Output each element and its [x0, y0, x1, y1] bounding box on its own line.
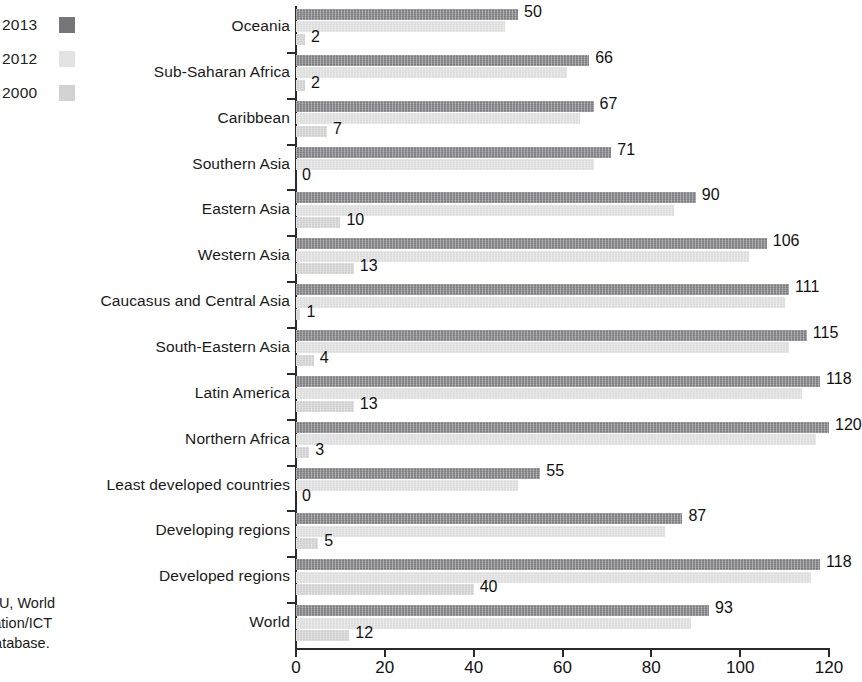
x-axis-tick-label: 60 [553, 658, 572, 678]
bar-texture [296, 584, 474, 595]
bar-2013 [296, 330, 807, 341]
bar-value-label: 4 [320, 352, 329, 363]
category-label: Developed regions [0, 567, 290, 585]
y-axis-tick [287, 556, 296, 558]
bar-2000 [296, 538, 318, 549]
bar-2000 [296, 217, 340, 228]
category-label: Developing regions [0, 521, 290, 539]
bar-2013 [296, 559, 820, 570]
bar-texture [296, 159, 594, 170]
bar-texture [296, 572, 811, 583]
bar-value-label: 118 [826, 373, 852, 384]
bar-texture [296, 263, 354, 274]
y-axis-tick [287, 327, 296, 329]
y-axis-tick [287, 465, 296, 467]
x-axis-tick-label: 120 [815, 658, 843, 678]
bar-value-label: 66 [595, 52, 613, 63]
bar-value-label: 10 [346, 214, 364, 225]
bar-2012 [296, 159, 594, 170]
y-axis-tick [287, 419, 296, 421]
category-label: Western Asia [0, 246, 290, 264]
bar-texture [296, 630, 349, 641]
category-label: Least developed countries [0, 476, 290, 494]
y-axis-tick [287, 281, 296, 283]
bar-texture [296, 217, 340, 228]
bar-texture [296, 34, 305, 45]
bar-value-label: 2 [311, 31, 320, 42]
bar-texture [296, 297, 785, 308]
bar-value-label: 0 [302, 490, 311, 501]
category-label: World [0, 613, 290, 631]
bar-texture [296, 55, 589, 66]
y-axis-tick [287, 602, 296, 604]
bar-2012 [296, 572, 811, 583]
bar-texture [296, 447, 309, 458]
bar-2013 [296, 605, 709, 616]
bar-2013 [296, 101, 594, 112]
bar-2000 [296, 447, 309, 458]
bar-2000 [296, 630, 349, 641]
bar-texture [296, 330, 807, 341]
category-label: Caribbean [0, 109, 290, 127]
bar-texture [296, 238, 767, 249]
bar-value-label: 5 [324, 535, 333, 546]
bar-2012 [296, 434, 816, 445]
y-axis-tick [287, 144, 296, 146]
bar-texture [296, 21, 505, 32]
bar-texture [296, 376, 820, 387]
bar-2013 [296, 9, 518, 20]
bar-value-label: 7 [333, 123, 342, 134]
bar-value-label: 1 [306, 306, 315, 317]
bar-2000 [296, 80, 305, 91]
bar-2013 [296, 513, 682, 524]
x-axis-tick [828, 648, 830, 657]
bar-value-label: 2 [311, 77, 320, 88]
category-label: South-Eastern Asia [0, 338, 290, 356]
bar-2012 [296, 342, 789, 353]
category-label: Eastern Asia [0, 200, 290, 218]
bar-2012 [296, 480, 518, 491]
bar-value-label: 40 [480, 581, 498, 592]
bar-texture [296, 422, 829, 433]
bar-2000 [296, 355, 314, 366]
bar-2013 [296, 468, 540, 479]
x-axis-tick [473, 648, 475, 657]
x-axis-tick [739, 648, 741, 657]
bar-value-label: 90 [702, 189, 720, 200]
x-axis-tick [384, 648, 386, 657]
bar-2000 [296, 401, 354, 412]
bar-texture [296, 342, 789, 353]
bar-2013 [296, 192, 696, 203]
bar-texture [296, 434, 816, 445]
bar-2013 [296, 238, 767, 249]
bar-texture [296, 147, 611, 158]
y-axis-tick [287, 98, 296, 100]
y-axis-tick [287, 373, 296, 375]
bar-texture [296, 9, 518, 20]
y-axis-tick [287, 235, 296, 237]
bar-texture [296, 605, 709, 616]
bar-texture [296, 513, 682, 524]
y-axis-tick [287, 510, 296, 512]
bar-2012 [296, 21, 505, 32]
bar-value-label: 50 [524, 6, 542, 17]
bar-texture [296, 526, 665, 537]
bar-texture [296, 80, 305, 91]
bar-value-label: 55 [546, 465, 564, 476]
bar-2012 [296, 67, 567, 78]
bar-value-label: 67 [600, 98, 618, 109]
y-axis-tick [287, 52, 296, 54]
bar-2013 [296, 55, 589, 66]
bar-2000 [296, 263, 354, 274]
bar-texture [296, 468, 540, 479]
x-axis-tick [650, 648, 652, 657]
x-axis-tick-label: 20 [375, 658, 394, 678]
category-label: Latin America [0, 384, 290, 402]
bar-texture [296, 401, 354, 412]
bar-2013 [296, 376, 820, 387]
bar-texture [296, 101, 594, 112]
bar-texture [296, 67, 567, 78]
bar-2013 [296, 422, 829, 433]
bar-2000 [296, 34, 305, 45]
